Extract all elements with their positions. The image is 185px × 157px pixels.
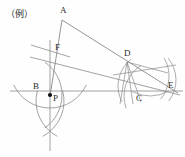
segment-A-E [62,20,178,93]
arcs-layer [14,58,176,136]
point-marker-P [48,93,52,97]
point-label-B: B [33,82,39,91]
segment-F-E [30,57,180,95]
geometry-construction-figure: （例） A F B P D C E [0,0,185,157]
figure-caption: （例） [6,9,33,19]
points-layer [48,93,52,97]
point-label-A: A [60,6,67,15]
point-label-C: C [136,94,142,103]
ray-D-down-1 [120,62,127,104]
point-label-E: E [168,81,174,90]
construction-canvas [0,0,185,157]
point-label-D: D [124,49,131,58]
point-label-P: P [53,94,58,103]
segment-A-P [50,20,62,96]
perp-bisector-F [31,45,70,57]
point-label-F: F [55,43,60,52]
